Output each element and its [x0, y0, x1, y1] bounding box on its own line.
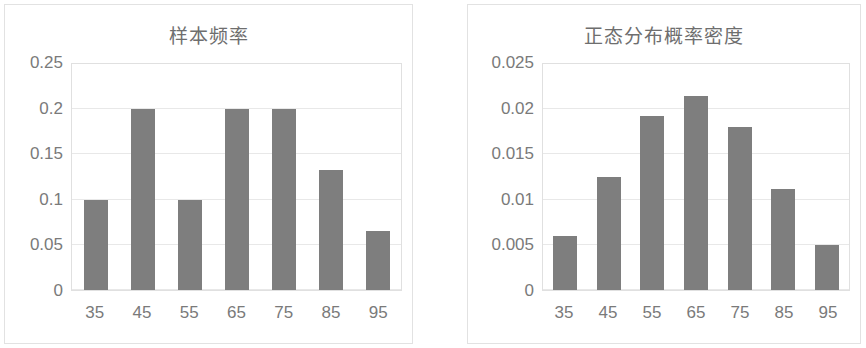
y-tick-label: 0.005 — [491, 235, 534, 255]
x-tick-label: 65 — [213, 303, 260, 323]
y-tick-label: 0.025 — [491, 53, 534, 73]
bar-slot — [260, 64, 307, 290]
bar — [728, 127, 752, 290]
chart-page: 样本频率 0.250.20.150.10.050 35455565758595 … — [0, 0, 866, 348]
bar — [640, 116, 664, 290]
y-tick-label: 0.05 — [30, 235, 63, 255]
bar — [225, 109, 249, 290]
x-tick-label: 85 — [307, 303, 354, 323]
bar — [815, 245, 839, 290]
bar-slot — [354, 64, 401, 290]
y-axis-left: 0.250.20.150.10.050 — [5, 63, 71, 291]
bar — [366, 231, 390, 290]
bar — [84, 200, 108, 290]
plot-area-right — [542, 63, 850, 291]
bar — [319, 170, 343, 290]
x-tick-label: 75 — [718, 303, 762, 323]
x-tick-label: 85 — [762, 303, 806, 323]
bar — [553, 236, 577, 290]
y-tick-label: 0.1 — [39, 190, 63, 210]
x-tick-label: 55 — [630, 303, 674, 323]
x-tick-label: 95 — [806, 303, 850, 323]
y-axis-right: 0.0250.020.0150.010.0050 — [468, 63, 542, 291]
plot-wrap-left: 0.250.20.150.10.050 35455565758595 — [5, 63, 412, 335]
bar-slot — [762, 64, 806, 290]
x-axis-left: 35455565758595 — [71, 291, 402, 335]
plot-area-left — [71, 63, 402, 291]
x-axis-right: 35455565758595 — [542, 291, 850, 335]
y-tick-label: 0.25 — [30, 53, 63, 73]
bar — [131, 109, 155, 290]
bar — [597, 177, 621, 290]
x-tick-label: 45 — [118, 303, 165, 323]
x-tick-label: 55 — [166, 303, 213, 323]
bar-series-right — [543, 64, 849, 290]
bar-slot — [166, 64, 213, 290]
x-tick-label: 35 — [542, 303, 586, 323]
y-tick-label: 0 — [54, 281, 63, 301]
bar-slot — [543, 64, 587, 290]
bar-slot — [307, 64, 354, 290]
x-tick-label: 35 — [71, 303, 118, 323]
y-tick-label: 0.01 — [501, 190, 534, 210]
x-tick-label: 95 — [355, 303, 402, 323]
bar-slot — [72, 64, 119, 290]
y-tick-label: 0.2 — [39, 99, 63, 119]
bar-slot — [119, 64, 166, 290]
chart-title-left: 样本频率 — [5, 21, 412, 48]
chart-title-right: 正态分布概率密度 — [468, 21, 860, 48]
bar-slot — [718, 64, 762, 290]
y-tick-label: 0.015 — [491, 144, 534, 164]
bar-slot — [674, 64, 718, 290]
chart-panel-sample-frequency: 样本频率 0.250.20.150.10.050 35455565758595 — [4, 4, 413, 344]
bar-slot — [805, 64, 849, 290]
bar — [771, 189, 795, 290]
bar-slot — [630, 64, 674, 290]
bar-slot — [213, 64, 260, 290]
chart-panel-normal-pdf: 正态分布概率密度 0.0250.020.0150.010.0050 354555… — [467, 4, 861, 344]
plot-wrap-right: 0.0250.020.0150.010.0050 35455565758595 — [468, 63, 860, 335]
x-tick-label: 45 — [586, 303, 630, 323]
bar — [178, 200, 202, 290]
bar-series-left — [72, 64, 401, 290]
y-tick-label: 0.02 — [501, 99, 534, 119]
x-tick-label: 65 — [674, 303, 718, 323]
y-tick-label: 0.15 — [30, 144, 63, 164]
bar-slot — [587, 64, 631, 290]
bar — [272, 109, 296, 290]
x-tick-label: 75 — [260, 303, 307, 323]
y-tick-label: 0 — [525, 281, 534, 301]
bar — [684, 96, 708, 290]
